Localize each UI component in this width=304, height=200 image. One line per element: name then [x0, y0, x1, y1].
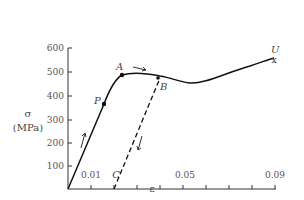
x-tick-label: 0.09 [265, 170, 285, 180]
arrow-right-icon [133, 67, 146, 71]
y-tick-label: 600 [47, 43, 64, 53]
y-tick-label: 100 [47, 161, 64, 171]
x-tick-label: 0.01 [81, 170, 101, 180]
point-b-marker [156, 76, 160, 80]
point-label-a: A [115, 61, 123, 72]
y-tick-label: 300 [47, 115, 64, 125]
x-ticks [91, 185, 275, 189]
y-tick-label: 400 [47, 91, 64, 101]
point-a-marker [120, 73, 124, 77]
point-label-b: B [159, 81, 167, 92]
y-ticks [68, 48, 72, 166]
point-label-p: P [93, 95, 101, 106]
x-axis-title: ε [149, 183, 154, 194]
stress-strain-chart: 600 500 400 300 200 100 0.01 C 0.05 0.09… [0, 0, 304, 200]
fracture-x-marker: x [271, 54, 277, 65]
y-tick-label: 500 [47, 67, 64, 77]
y-tick-label: 200 [47, 138, 64, 148]
y-axis-title: σ [25, 108, 32, 119]
y-axis-unit: (MPa) [13, 122, 43, 133]
arrow-down-icon [137, 136, 142, 150]
unloading-line [114, 78, 160, 189]
point-p-marker [102, 102, 106, 106]
y-tick-labels: 600 500 400 300 200 100 [47, 43, 64, 171]
arrow-up-icon [81, 133, 86, 148]
x-tick-label: 0.05 [175, 170, 195, 180]
